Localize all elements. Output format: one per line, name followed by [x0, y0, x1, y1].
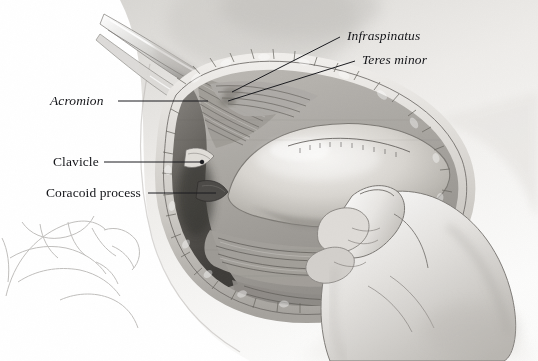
label-clavicle: Clavicle: [53, 155, 99, 169]
label-teres-minor: Teres minor: [362, 53, 427, 67]
label-acromion: Acromion: [50, 94, 104, 108]
label-infraspinatus: Infraspinatus: [347, 29, 420, 43]
label-coracoid-process: Coracoid process: [46, 186, 141, 200]
figure-container: Infraspinatus Teres minor Acromion Clavi…: [0, 0, 538, 361]
surgical-illustration-artwork: [0, 0, 538, 361]
